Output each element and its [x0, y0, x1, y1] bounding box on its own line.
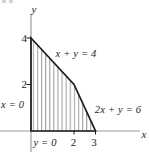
x-tick-label-3: 3: [91, 136, 97, 148]
equation-label-x-equals-0: x = 0: [0, 99, 25, 110]
x-axis-label: x: [141, 128, 147, 140]
equation-label-2x-plus-y-6: 2x + y = 6: [95, 104, 142, 115]
equation-label-y-equals-0: y = 0: [32, 137, 57, 148]
equation-label-x-plus-y-4: x + y = 4: [54, 48, 97, 59]
y-tick-label-2: 2: [22, 78, 28, 90]
y-tick-label-4: 4: [22, 32, 28, 44]
x-tick-label-2: 2: [71, 136, 77, 148]
y-axis-label: y: [31, 3, 37, 15]
feasible-region-figure: y x 4 2 2 3 x + y = 4 2x + y = 6 x = 0 y…: [0, 0, 149, 156]
figure-canvas: y x 4 2 2 3 x + y = 4 2x + y = 6 x = 0 y…: [0, 0, 149, 156]
